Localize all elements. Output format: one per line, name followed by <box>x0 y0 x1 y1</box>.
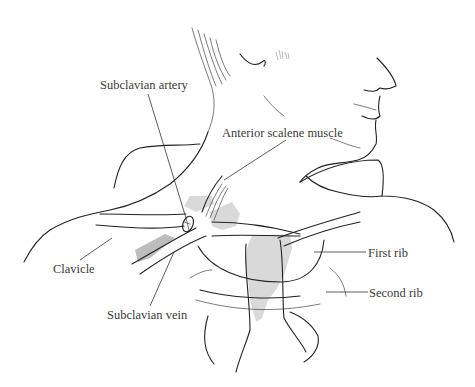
anatomy-diagram: Subclavian artery Anterior scalene muscl… <box>0 0 475 387</box>
leader-subclavian-vein <box>150 252 174 306</box>
label-subclavian-vein: Subclavian vein <box>107 309 187 322</box>
label-clavicle: Clavicle <box>53 263 95 276</box>
leader-clavicle <box>80 238 112 260</box>
leader-anterior-scalene <box>224 140 286 180</box>
leader-subclavian-artery <box>148 94 186 218</box>
label-first-rib: First rib <box>368 247 408 260</box>
head-outline <box>192 28 396 182</box>
anatomy-illustration <box>0 0 475 387</box>
label-subclavian-artery: Subclavian artery <box>100 79 188 92</box>
label-second-rib: Second rib <box>369 287 423 300</box>
neck-and-shoulders <box>24 96 454 262</box>
label-anterior-scalene-muscle: Anterior scalene muscle <box>222 127 343 140</box>
